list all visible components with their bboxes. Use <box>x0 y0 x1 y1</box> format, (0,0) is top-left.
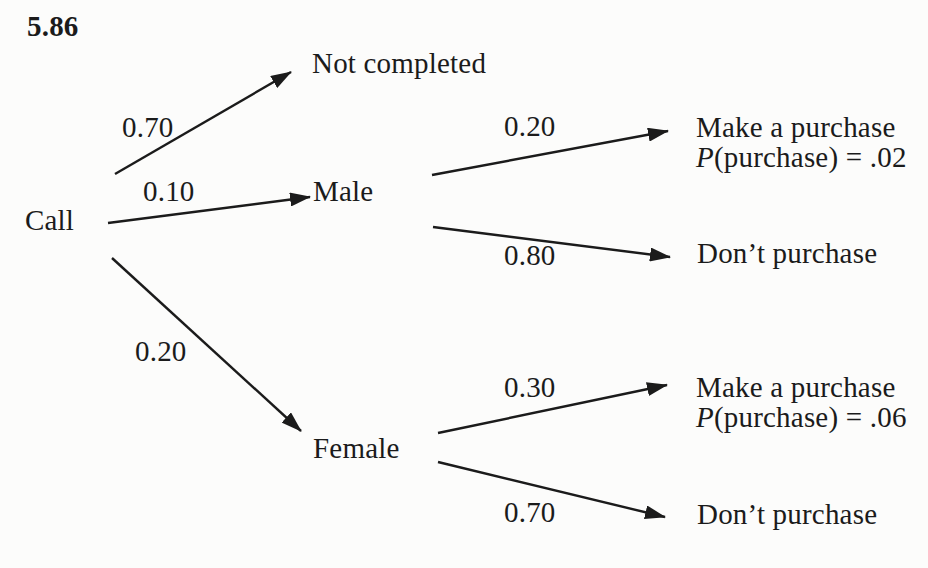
node-call: Call <box>25 205 74 235</box>
node-female: Female <box>313 433 400 463</box>
probability-female-dont-purchase: 0.70 <box>504 497 556 527</box>
outcome-female-purchase-probability-note: P(purchase) = .06 <box>696 402 907 432</box>
probability-call-not-completed: 0.70 <box>122 112 174 142</box>
probability-male-dont-purchase: 0.80 <box>504 240 556 270</box>
node-male: Male <box>313 176 373 206</box>
problem-number: 5.86 <box>27 11 79 41</box>
outcome-male-purchase-probability-note: P(purchase) = .02 <box>696 142 907 172</box>
probability-tree-diagram: 5.86 Call 0.70 Not completed 0.10 Male 0… <box>0 0 928 568</box>
p-symbol: P <box>696 141 714 173</box>
tree-branch-arrows <box>0 0 928 568</box>
probability-male-make-purchase: 0.20 <box>504 111 556 141</box>
probability-call-male: 0.10 <box>143 176 195 206</box>
probability-call-female: 0.20 <box>135 336 187 366</box>
p-note-rest: (purchase) = .06 <box>714 401 907 433</box>
outcome-male-dont-purchase: Don’t purchase <box>697 238 877 268</box>
p-symbol: P <box>696 401 714 433</box>
probability-female-make-purchase: 0.30 <box>504 372 556 402</box>
outcome-male-make-purchase-label: Make a purchase <box>696 112 907 142</box>
outcome-female-make-purchase-label: Make a purchase <box>696 372 907 402</box>
branch-line-call-male <box>108 197 310 223</box>
outcome-female-dont-purchase: Don’t purchase <box>697 499 877 529</box>
outcome-female-make-purchase: Make a purchase P(purchase) = .06 <box>696 372 907 432</box>
outcome-male-make-purchase: Make a purchase P(purchase) = .02 <box>696 112 907 172</box>
node-not-completed: Not completed <box>312 48 486 78</box>
p-note-rest: (purchase) = .02 <box>714 141 907 173</box>
